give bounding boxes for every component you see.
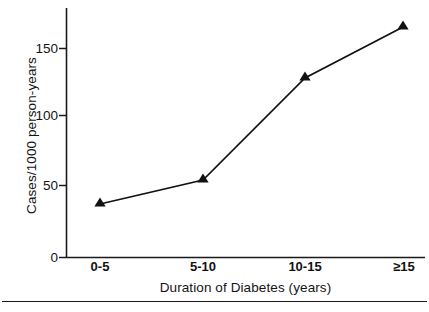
data-point-marker-5-10 [197, 174, 208, 183]
x-tick-label-5-10: 5-10 [190, 259, 216, 274]
chart-figure: Cases/1000 person-years 150 100 50 0 0-5… [0, 0, 429, 312]
x-tick-label-ge15: ≥15 [393, 259, 415, 274]
x-tick-label-0-5: 0-5 [91, 259, 110, 274]
data-point-marker-ge15 [397, 21, 408, 30]
x-axis-tick-labels: 0-5 5-10 10-15 ≥15 [0, 259, 429, 279]
x-axis-title: Duration of Diabetes (years) [66, 280, 425, 295]
data-point-marker-0-5 [94, 198, 105, 207]
x-tick-label-10-15: 10-15 [288, 259, 321, 274]
data-series-line [100, 27, 403, 204]
bottom-divider [2, 301, 427, 302]
